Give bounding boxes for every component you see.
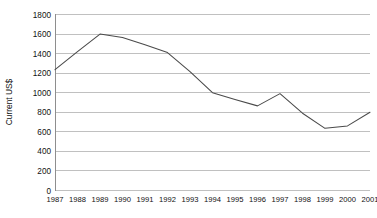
x-axis-tick-labels: 1987198819891990199119921993199419951996…	[47, 195, 377, 204]
x-tick-label: 1990	[114, 195, 131, 204]
y-tick-label: 600	[37, 128, 51, 137]
x-tick-label: 1999	[317, 195, 334, 204]
x-tick-label: 1989	[92, 195, 109, 204]
y-tick-label: 1600	[33, 30, 52, 39]
y-tick-label: 800	[37, 108, 51, 117]
x-tick-label: 1994	[204, 195, 221, 204]
gridlines-horizontal	[55, 15, 370, 191]
x-tick-label: 1991	[137, 195, 154, 204]
x-tick-label: 1987	[47, 195, 64, 204]
x-tick-label: 2001	[362, 195, 377, 204]
x-tick-label: 1993	[182, 195, 199, 204]
y-axis-title: Current US$	[4, 78, 14, 125]
x-tick-label: 1992	[159, 195, 176, 204]
y-tick-label: 1000	[33, 89, 52, 98]
y-tick-label: 1800	[33, 11, 52, 20]
x-tick-label: 1988	[69, 195, 86, 204]
y-tick-label: 1400	[33, 50, 52, 59]
y-tick-label: 1200	[33, 69, 52, 78]
x-tick-label: 1998	[294, 195, 311, 204]
y-axis-tick-labels: 1800 1600 1400 1200 1000 800 600 400 200…	[33, 11, 52, 196]
chart-canvas: 1800 1600 1400 1200 1000 800 600 400 200…	[0, 0, 377, 218]
y-tick-label: 200	[37, 167, 51, 176]
x-tick-label: 1995	[227, 195, 244, 204]
series-line-current-usd	[55, 34, 370, 128]
x-tick-label: 1996	[249, 195, 266, 204]
line-chart: 1800 1600 1400 1200 1000 800 600 400 200…	[0, 0, 377, 218]
x-tick-label: 2000	[339, 195, 356, 204]
y-tick-label: 400	[37, 147, 51, 156]
x-tick-label: 1997	[272, 195, 289, 204]
